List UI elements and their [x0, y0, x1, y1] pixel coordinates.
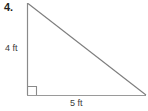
right-triangle-diagram — [0, 0, 148, 111]
right-angle-icon — [28, 87, 37, 96]
hypotenuse-line — [28, 4, 146, 96]
horizontal-leg-label: 5 ft — [70, 99, 83, 108]
problem-number-label: 4. — [4, 2, 13, 13]
figure-container: 4. 4 ft 5 ft — [0, 0, 148, 111]
vertical-leg-label: 4 ft — [5, 44, 18, 53]
